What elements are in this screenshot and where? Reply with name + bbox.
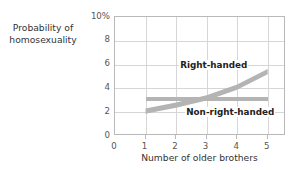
x-tick-label: 4 xyxy=(226,142,246,151)
plot-area: Right-handed Non-right-handed xyxy=(114,16,285,135)
x-tick-label: 3 xyxy=(196,142,216,151)
annotation-right-handed: Right-handed xyxy=(179,60,248,70)
annotation-layer: Right-handed Non-right-handed xyxy=(115,17,284,134)
x-tick-label: 2 xyxy=(165,142,185,151)
annotation-non-right-handed: Non-right-handed xyxy=(185,107,275,117)
x-tick-label: 1 xyxy=(135,142,155,151)
x-tick-label: 0 xyxy=(104,142,124,151)
x-tick-label: 5 xyxy=(257,142,277,151)
chart-figure: Probability of homosexuality 0246810% 01… xyxy=(0,0,294,170)
x-axis-title: Number of older brothers xyxy=(114,152,285,163)
